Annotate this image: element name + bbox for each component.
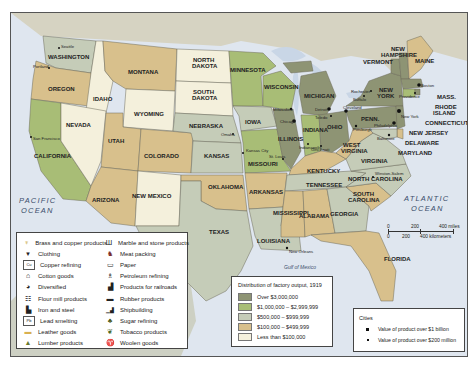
- svg-text:PENN.: PENN.: [361, 116, 380, 122]
- svg-text:Gulf of Mexico: Gulf of Mexico: [284, 264, 316, 270]
- svg-text:HAMPSHIRE: HAMPSHIRE: [381, 52, 417, 58]
- legend-item: ☷Flour mill products: [23, 293, 107, 304]
- cities-legend: Cities Value of product over $1 billion …: [353, 308, 465, 352]
- lead-smelting-icon: Pb: [23, 316, 35, 326]
- legend-item: ШMarble and stone products: [105, 237, 189, 248]
- svg-text:NEVADA: NEVADA: [66, 122, 92, 128]
- legend-tier: Less than $100,000: [238, 333, 305, 341]
- svg-text:TEXAS: TEXAS: [209, 229, 229, 235]
- legend-item: ♆Brass and copper products: [23, 237, 107, 248]
- leather-goods-icon: ▬: [23, 328, 33, 336]
- state-colorado: [138, 129, 193, 173]
- svg-text:OREGON: OREGON: [48, 86, 75, 92]
- svg-text:IDAHO: IDAHO: [93, 96, 113, 102]
- legend-item: ▁▟Shipbuilding: [105, 304, 189, 315]
- legend-item: ▬Leather goods: [23, 327, 107, 338]
- svg-text:Omaha: Omaha: [221, 132, 235, 137]
- svg-text:MICHIGAN: MICHIGAN: [304, 93, 334, 99]
- diversified-icon: ◕: [23, 283, 33, 291]
- svg-text:PACIFIC: PACIFIC: [19, 196, 56, 205]
- svg-text:CONNECTICUT: CONNECTICUT: [425, 120, 467, 126]
- scale-km-200: 200: [402, 234, 410, 239]
- svg-text:MAINE: MAINE: [415, 58, 434, 64]
- distribution-legend-title: Distribution of factory output, 1919: [238, 282, 322, 288]
- svg-text:OCEAN: OCEAN: [21, 206, 54, 215]
- svg-text:Chicago: Chicago: [280, 119, 296, 124]
- shipbuilding-icon: ▁▟: [105, 306, 115, 314]
- legend-city-small: Value of product over $200 million: [366, 337, 456, 343]
- svg-text:NEBRASKA: NEBRASKA: [189, 123, 224, 129]
- state-wisconsin: [263, 71, 296, 111]
- legend-item: ♈Woolen goods: [105, 338, 189, 349]
- svg-text:LOUISIANA: LOUISIANA: [257, 238, 291, 244]
- legend-tier: $100,000 – $499,999: [238, 323, 309, 331]
- brass-copper-icon: ♆: [23, 239, 30, 247]
- scale-miles-200: 200: [411, 224, 419, 229]
- svg-text:CALIFORNIA: CALIFORNIA: [34, 153, 72, 159]
- svg-text:ARIZONA: ARIZONA: [92, 197, 120, 203]
- svg-text:MARYLAND: MARYLAND: [398, 150, 433, 156]
- svg-text:Portland: Portland: [33, 64, 49, 69]
- svg-text:Rochester: Rochester: [351, 89, 371, 94]
- svg-text:FLORIDA: FLORIDA: [384, 256, 411, 262]
- svg-text:VERMONT: VERMONT: [363, 59, 393, 65]
- legend-tier: Over $3,000,000: [238, 293, 298, 301]
- rubber-icon: ▬: [105, 295, 115, 303]
- svg-text:MINNESOTA: MINNESOTA: [230, 67, 266, 73]
- svg-text:INDIANA: INDIANA: [303, 127, 329, 133]
- scale-km-0: 0: [387, 234, 390, 239]
- lumber-icon: ▲: [23, 339, 33, 347]
- svg-text:OKLAHOMA: OKLAHOMA: [208, 184, 244, 190]
- tobacco-icon: ❦: [105, 328, 115, 336]
- svg-text:ATLANTIC: ATLANTIC: [403, 194, 449, 203]
- iron-steel-icon: ▙: [23, 306, 33, 314]
- svg-text:MONTANA: MONTANA: [128, 69, 159, 75]
- svg-text:WASHINGTON: WASHINGTON: [48, 54, 89, 60]
- small-city-marker-icon: [367, 339, 369, 341]
- svg-text:Milwaukee: Milwaukee: [273, 107, 293, 112]
- svg-text:MISSOURI: MISSOURI: [248, 161, 278, 167]
- svg-text:VIRGINIA: VIRGINIA: [341, 148, 368, 154]
- svg-text:GEORGIA: GEORGIA: [330, 211, 359, 217]
- sugar-icon: ♣: [105, 317, 115, 325]
- legend-item: ♣Sugar refining: [105, 315, 189, 326]
- svg-text:ALABAMA: ALABAMA: [299, 213, 330, 219]
- distribution-legend: Distribution of factory output, 1919 Ove…: [231, 276, 333, 347]
- legend-tier: $500,000 – $999,999: [238, 313, 309, 321]
- svg-text:KENTUCKY: KENTUCKY: [307, 168, 340, 174]
- svg-text:OCEAN: OCEAN: [411, 204, 444, 213]
- legend-item: ⌂Cotton goods: [23, 271, 107, 282]
- clothing-icon: ▼: [23, 250, 33, 258]
- state-montana: [103, 41, 177, 91]
- svg-text:YORK: YORK: [377, 93, 395, 99]
- legend-item: CuCopper refining: [23, 259, 107, 270]
- svg-text:UTAH: UTAH: [108, 138, 124, 144]
- legend-item: ♗Petroleum refining: [105, 271, 189, 282]
- legend-item: PbLead smelting: [23, 315, 107, 326]
- legend-city-large: Value of product over $1 billion: [366, 326, 449, 332]
- legend-item: ♞Meat packing: [105, 248, 189, 259]
- svg-text:ISLAND: ISLAND: [433, 110, 456, 116]
- svg-text:Philadelphia: Philadelphia: [374, 123, 397, 128]
- svg-text:COLORADO: COLORADO: [144, 153, 179, 159]
- legend-item: ▬Rubber products: [105, 293, 189, 304]
- svg-text:Providence: Providence: [399, 94, 421, 99]
- flour-mill-icon: ☷: [23, 295, 33, 303]
- svg-text:WISCONSIN: WISCONSIN: [264, 84, 299, 90]
- svg-text:DELAWARE: DELAWARE: [405, 140, 439, 146]
- svg-text:CAROLINA: CAROLINA: [348, 197, 380, 203]
- svg-text:New York: New York: [401, 114, 420, 119]
- svg-text:VIRGINIA: VIRGINIA: [361, 158, 388, 164]
- svg-text:DAKOTA: DAKOTA: [192, 63, 218, 69]
- meat-packing-icon: ♞: [105, 250, 115, 258]
- scale-miles-400: 400 miles: [439, 224, 460, 229]
- legend-item: ▙Iron and steel: [23, 304, 107, 315]
- svg-text:Indianapolis: Indianapolis: [299, 145, 321, 150]
- svg-text:ILLINOIS: ILLINOIS: [278, 136, 303, 142]
- svg-text:KANSAS: KANSAS: [204, 153, 229, 159]
- svg-text:Toledo: Toledo: [315, 115, 328, 120]
- copper-refining-icon: Cu: [23, 260, 35, 270]
- cotton-goods-icon: ⌂: [23, 272, 33, 280]
- svg-text:New Orleans: New Orleans: [289, 249, 313, 254]
- svg-text:DAKOTA: DAKOTA: [192, 95, 218, 101]
